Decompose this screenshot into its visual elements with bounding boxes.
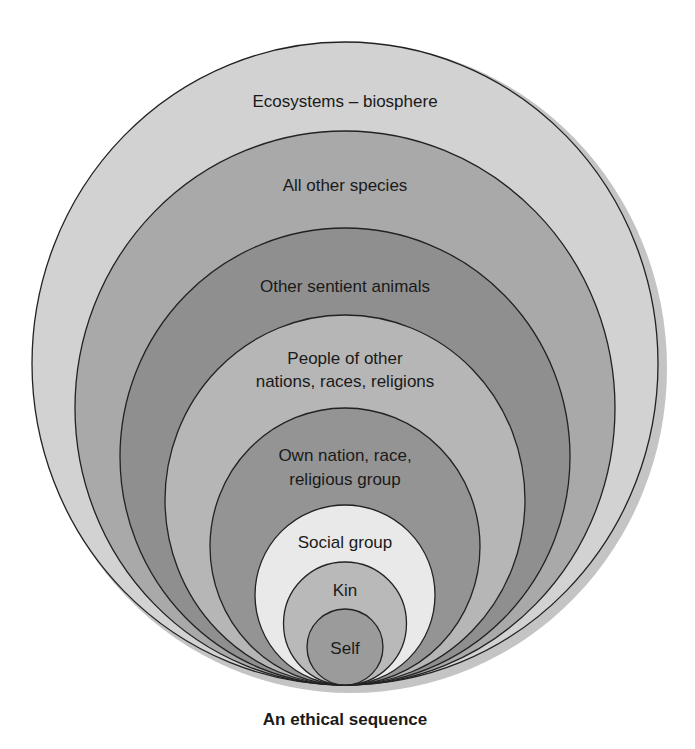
- label-kin: Kin: [333, 581, 358, 600]
- label-other-sentient-animals: Other sentient animals: [260, 277, 430, 296]
- label-social-group: Social group: [298, 533, 393, 552]
- label-ecosystems-biosphere: Ecosystems – biosphere: [252, 92, 437, 111]
- label-self: Self: [330, 639, 360, 658]
- label-people-of-other-line1: People of other: [287, 349, 403, 368]
- ethical-sequence-diagram: Ecosystems – biosphere All other species…: [0, 0, 695, 749]
- label-all-other-species: All other species: [283, 176, 408, 195]
- label-own-nation-line1: Own nation, race,: [278, 446, 411, 465]
- label-own-nation-line2: religious group: [289, 470, 401, 489]
- label-people-of-other-line2: nations, races, religions: [256, 372, 435, 391]
- diagram-caption: An ethical sequence: [0, 710, 690, 730]
